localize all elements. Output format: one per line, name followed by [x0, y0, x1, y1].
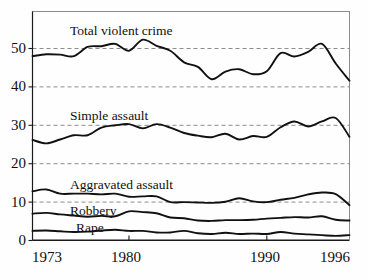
y-tick-label-40: 40	[11, 78, 26, 94]
line-chart: 0 10 20 30 40 50 1973 1980 1990 1996 Tot…	[0, 0, 369, 279]
series-label-rape: Rape	[76, 220, 104, 235]
y-tick-label-30: 30	[11, 117, 26, 133]
series-label-simple-assault: Simple assault	[70, 108, 149, 123]
series-label-total-violent-crime: Total violent crime	[70, 23, 173, 38]
y-tick-label-50: 50	[11, 40, 26, 56]
chart-background	[0, 0, 369, 279]
y-tick-label-20: 20	[11, 155, 26, 171]
x-tick-label-1980: 1980	[111, 249, 141, 265]
y-tick-label-10: 10	[11, 194, 26, 210]
y-tick-label-0: 0	[19, 232, 27, 248]
chart-container: 0 10 20 30 40 50 1973 1980 1990 1996 Tot…	[0, 0, 369, 279]
x-tick-label-1990: 1990	[250, 249, 280, 265]
x-tick-label-1996: 1996	[320, 249, 351, 265]
series-label-robbery: Robbery	[70, 203, 117, 218]
series-label-aggravated-assault: Aggravated assault	[70, 177, 173, 192]
x-tick-label-1973: 1973	[32, 249, 62, 265]
